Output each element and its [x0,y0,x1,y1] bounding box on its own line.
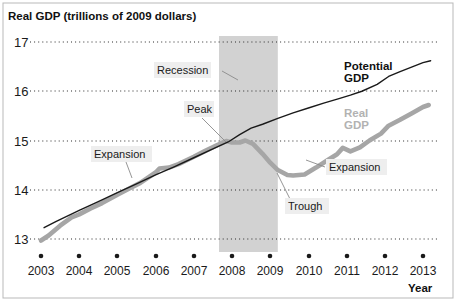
x-tick-label-2008: 2008 [219,264,246,278]
y-axis-tick-labels: 17 16 15 14 13 [14,35,28,247]
x-tick-label-2003: 2003 [28,264,55,278]
series-label-potential-gdp: Potential GDP [344,60,393,84]
leader-expansion-left [126,162,132,178]
x-tick-label-2012: 2012 [372,264,399,278]
x-tick-dot-2011 [345,254,350,259]
x-tick-dot-2010 [307,254,312,259]
annotation-trough-label: Trough [288,200,322,212]
x-tick-dot-2008 [230,254,235,259]
y-tick-label-16: 16 [14,84,28,99]
annotation-expansion-right-label: Expansion [329,161,380,173]
y-tick-label-15: 15 [14,134,28,149]
x-tick-label-2013: 2013 [410,264,437,278]
annotation-trough: Trough [285,198,329,214]
x-tick-label-2011: 2011 [334,264,360,278]
annotation-peak-label: Peak [187,103,213,115]
annotation-peak: Peak [184,101,214,117]
gdp-line-chart: 17 16 15 14 13 2003 2004 2005 2006 20 [0,0,456,301]
x-tick-label-2005: 2005 [104,264,131,278]
annotation-expansion-left-label: Expansion [94,148,145,160]
x-tick-label-2004: 2004 [66,264,93,278]
y-tick-label-14: 14 [14,183,28,198]
x-tick-label-2009: 2009 [257,264,284,278]
annotation-recession-label: Recession [157,64,208,76]
x-tick-dot-2007 [192,254,197,259]
series-label-potential-gdp-line1: Potential [344,60,393,72]
series-label-real-gdp-line1: Real [344,107,368,119]
y-tick-label-17: 17 [14,35,28,50]
page-title: Real GDP (trillions of 2009 dollars) [8,10,196,22]
x-tick-dot-2013 [421,254,426,259]
x-tick-label-2006: 2006 [143,264,170,278]
x-tick-label-2010: 2010 [296,264,323,278]
x-axis-tick-labels: 2003 2004 2005 2006 2007 2008 2009 2010 … [28,264,437,278]
chart-container: 17 16 15 14 13 2003 2004 2005 2006 20 [0,0,456,301]
x-axis-tick-marks [39,254,426,259]
x-tick-dot-2009 [268,254,273,259]
x-tick-dot-2003 [39,254,44,259]
series-label-real-gdp: Real GDP [344,107,369,131]
x-tick-dot-2006 [154,254,159,259]
x-tick-dot-2004 [77,254,82,259]
series-label-real-gdp-line2: GDP [344,119,369,131]
series-label-potential-gdp-line2: GDP [344,72,369,84]
annotation-recession: Recession [154,62,211,78]
annotation-expansion-right: Expansion [326,159,387,175]
annotation-expansion-left: Expansion [91,146,152,162]
x-tick-dot-2005 [115,254,120,259]
y-tick-label-13: 13 [14,232,28,247]
x-tick-dot-2012 [383,254,388,259]
x-tick-label-2007: 2007 [181,264,208,278]
x-axis-title: Year [408,282,433,294]
